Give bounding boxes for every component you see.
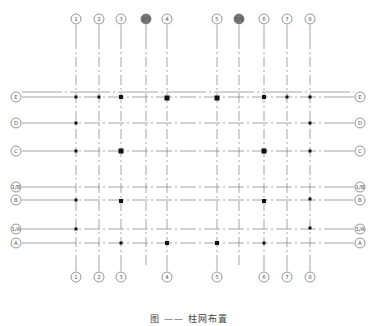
right-bubble-B: B [355, 195, 365, 205]
left-bubble-D: D [11, 118, 21, 128]
axis-bubbles: 1122332/344555/6667788EEDDCC1/B1/BBB1/A1… [11, 14, 365, 282]
structural-columns [75, 95, 312, 245]
axis-label: 2/3 [142, 16, 151, 22]
axis-label: E [14, 94, 18, 100]
axis-label: 1/B [11, 184, 20, 190]
column-marker [309, 96, 312, 99]
bottom-bubble-5: 5 [212, 272, 222, 282]
column-marker [75, 150, 78, 153]
left-bubble-B: B [11, 195, 21, 205]
column-marker [215, 96, 220, 101]
axis-label: 8 [308, 274, 312, 280]
column-marker [215, 241, 219, 245]
bottom-bubble-2: 2 [94, 272, 104, 282]
axis-label: A [14, 240, 18, 246]
column-marker [75, 228, 78, 231]
column-marker [75, 96, 78, 99]
axis-label: 1/B [355, 184, 364, 190]
axis-label: 4 [165, 16, 169, 22]
bottom-bubble-6: 6 [259, 272, 269, 282]
right-bubble-C: C [355, 146, 365, 156]
column-marker [119, 149, 124, 154]
top-bubble-8: 8 [305, 14, 315, 24]
top-bubble-5: 5 [212, 14, 222, 24]
axis-label: 4 [165, 274, 169, 280]
column-marker [263, 242, 266, 245]
axis-label: 1 [74, 274, 78, 280]
column-marker [262, 149, 267, 154]
axis-label: 2 [97, 274, 101, 280]
axis-label: D [14, 120, 18, 126]
axis-label: D [358, 120, 362, 126]
axis-label: 3 [119, 274, 123, 280]
bottom-bubble-3: 3 [116, 272, 126, 282]
axis-label: 3 [119, 16, 123, 22]
column-marker [120, 242, 123, 245]
column-marker [262, 95, 266, 99]
axis-label: 5/6 [235, 16, 244, 22]
axis-label: B [14, 197, 18, 203]
bottom-bubble-7: 7 [282, 272, 292, 282]
axis-label: 7 [285, 16, 289, 22]
column-marker [119, 95, 123, 99]
column-marker [98, 96, 101, 99]
top-bubble-4: 4 [162, 14, 172, 24]
grid-lines [22, 25, 354, 271]
axis-label: 6 [262, 274, 266, 280]
axis-label: E [358, 94, 362, 100]
axis-label: 6 [262, 16, 266, 22]
top-bubble-1: 1 [71, 14, 81, 24]
column-marker [75, 199, 78, 202]
column-marker [165, 96, 170, 101]
right-bubble-D: D [355, 118, 365, 128]
axis-label: 1/A [11, 226, 20, 232]
axis-label: C [358, 148, 362, 154]
column-marker [165, 241, 169, 245]
axis-label: A [358, 240, 362, 246]
axis-label: C [14, 148, 18, 154]
bottom-bubble-4: 4 [162, 272, 172, 282]
column-marker [309, 227, 312, 230]
axis-label: 7 [285, 274, 289, 280]
right-bubble-E: E [355, 92, 365, 102]
axis-label: 5 [215, 16, 219, 22]
bottom-bubble-8: 8 [305, 272, 315, 282]
column-marker [286, 96, 289, 99]
top-bubble-5-6: 5/6 [234, 14, 244, 24]
top-bubble-3: 3 [116, 14, 126, 24]
column-marker [309, 122, 312, 125]
left-bubble-1-B: 1/B [11, 182, 21, 192]
axis-label: 8 [308, 16, 312, 22]
axis-label: B [358, 197, 362, 203]
drawing-caption: 图 —— 柱网布置 [0, 312, 378, 325]
left-bubble-A: A [11, 238, 21, 248]
column-marker [309, 150, 312, 153]
column-marker [75, 122, 78, 125]
column-marker [309, 198, 312, 201]
column-marker [262, 199, 266, 203]
left-bubble-1-A: 1/A [11, 224, 21, 234]
right-bubble-1-B: 1/B [355, 182, 365, 192]
axis-label: 1 [74, 16, 78, 22]
top-bubble-2-3: 2/3 [141, 14, 151, 24]
axis-label: 5 [215, 274, 219, 280]
axis-label: 1/A [355, 226, 364, 232]
left-bubble-C: C [11, 146, 21, 156]
column-marker [119, 199, 123, 203]
column-grid-drawing: 1122332/344555/6667788EEDDCC1/B1/BBB1/A1… [0, 0, 378, 326]
right-bubble-1-A: 1/A [355, 224, 365, 234]
left-bubble-E: E [11, 92, 21, 102]
bottom-bubble-1: 1 [71, 272, 81, 282]
axis-label: 2 [97, 16, 101, 22]
top-bubble-2: 2 [94, 14, 104, 24]
right-bubble-A: A [355, 238, 365, 248]
top-bubble-6: 6 [259, 14, 269, 24]
top-bubble-7: 7 [282, 14, 292, 24]
